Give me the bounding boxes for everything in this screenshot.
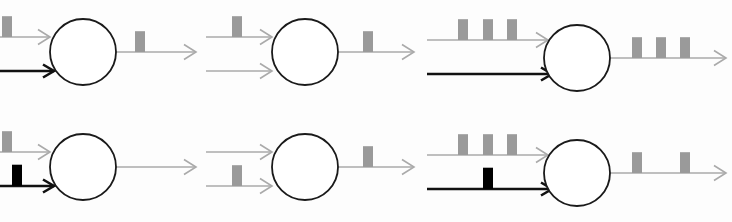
- panel-3-soma: [544, 25, 610, 91]
- panel-2-soma: [272, 19, 338, 85]
- panel-3-input-top-spike-3: [507, 19, 517, 40]
- panel-6-input-top-spike-1: [458, 134, 468, 155]
- panel-6-output-spike-2: [680, 152, 690, 173]
- panel-3-input-top-spike-2: [483, 19, 493, 40]
- panel-2-input-top-spike-1: [232, 16, 242, 37]
- panel-2-output-spike-1: [363, 31, 373, 52]
- neuron-spike-diagram: [0, 0, 732, 222]
- panel-6-input-top-spike-3: [507, 134, 517, 155]
- panel-6-input-top-spike-2: [483, 134, 493, 155]
- panel-6-input-bottom-spike-1: [483, 168, 493, 189]
- panel-3-output-spike-3: [680, 37, 690, 58]
- panel-4-soma: [50, 134, 116, 200]
- panel-1-input-top-spike-1: [2, 16, 12, 37]
- panel-3-input-top-spike-1: [458, 19, 468, 40]
- panel-1-output-spike-1: [135, 31, 145, 52]
- panel-6-output-spike-1: [632, 152, 642, 173]
- panel-3-output-spike-2: [656, 37, 666, 58]
- panel-3-output-spike-1: [632, 37, 642, 58]
- panel-6-soma: [544, 140, 610, 206]
- diagram-canvas: [0, 0, 732, 222]
- panel-5-input-bottom-spike-1: [232, 165, 242, 186]
- panel-4-input-bottom-spike-1: [12, 165, 22, 186]
- panel-5-soma: [272, 134, 338, 200]
- panel-1-soma: [50, 19, 116, 85]
- panel-5-output-spike-1: [363, 146, 373, 167]
- panel-4-input-top-spike-1: [2, 131, 12, 152]
